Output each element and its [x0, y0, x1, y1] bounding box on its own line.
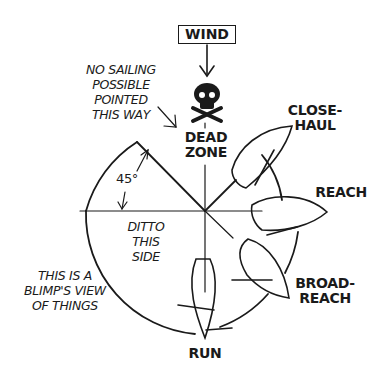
broad-reach-ray [205, 211, 233, 238]
close-haul-line: HAUL [282, 118, 348, 133]
note-line: THIS [118, 234, 174, 249]
sail-reach [252, 197, 327, 231]
dead-zone-line: ZONE [183, 145, 229, 160]
note-line: POSSIBLE [76, 77, 166, 92]
run-label: RUN [182, 346, 228, 361]
note-line: SIDE [118, 249, 174, 264]
broad-reach-line: BROAD- [292, 276, 358, 291]
close-haul-line: CLOSE- [282, 103, 348, 118]
note-line: DITTO [118, 219, 174, 234]
blimp-note: THIS IS A BLIMP'S VIEW OF THINGS [16, 268, 114, 313]
note-line: NO SAILING [76, 62, 166, 77]
broad-reach-line: REACH [292, 291, 358, 306]
sail-close-haul [232, 126, 292, 188]
broad-reach-label: BROAD- REACH [292, 276, 358, 306]
wind-label: WIND [178, 25, 236, 44]
note-line: THIS WAY [76, 107, 166, 122]
sail-run [192, 259, 216, 338]
note-line: BLIMP'S VIEW [16, 283, 114, 298]
reach-label: REACH [312, 185, 370, 200]
no-sailing-note: NO SAILING POSSIBLE POINTED THIS WAY [76, 62, 166, 122]
sail-broad-reach [240, 239, 289, 298]
run-line: RUN [182, 346, 228, 361]
close-haul-ray [205, 180, 236, 211]
note-line: POINTED [76, 92, 166, 107]
close-haul-label: CLOSE- HAUL [282, 103, 348, 133]
dead-zone-label: DEAD ZONE [183, 130, 229, 160]
angle-label: 45° [110, 171, 144, 186]
ditto-note: DITTO THIS SIDE [118, 219, 174, 264]
dead-zone-line: DEAD [183, 130, 229, 145]
note-line: THIS IS A [16, 268, 114, 283]
note-line: OF THINGS [16, 298, 114, 313]
reach-line: REACH [312, 185, 370, 200]
skull-crossbones-icon [193, 83, 221, 121]
